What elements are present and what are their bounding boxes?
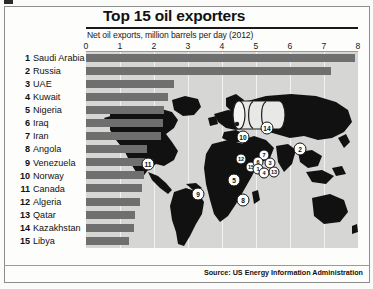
rank-number: 7 — [25, 131, 30, 141]
plot-area: 111021412157631413589 — [86, 52, 358, 248]
map-marker-canada[interactable]: 11 — [142, 158, 155, 171]
source-divider — [4, 265, 370, 266]
country-list: 1Saudi Arabia2Russia3UAE4Kuwait5Nigeria6… — [8, 52, 86, 248]
map-marker-nigeria[interactable]: 5 — [228, 174, 241, 187]
rank-number: 14 — [20, 223, 30, 233]
rank-number: 5 — [25, 105, 30, 115]
map-marker-russia[interactable]: 2 — [294, 143, 307, 156]
x-tick-label-4: 4 — [220, 41, 225, 51]
page-title: Top 15 oil exporters — [103, 7, 245, 25]
rank-number: 8 — [25, 144, 30, 154]
country-name: UAE — [33, 79, 52, 89]
list-item[interactable]: 10Norway — [8, 171, 86, 184]
bar-qatar — [86, 211, 135, 219]
x-tick-label-2: 2 — [152, 41, 157, 51]
rank-number: 10 — [20, 171, 30, 181]
list-item[interactable]: 5Nigeria — [8, 105, 86, 118]
source-credit: Source: US Energy Information Administra… — [204, 268, 363, 277]
country-name: Iran — [33, 131, 49, 141]
list-item[interactable]: 8Angola — [8, 144, 86, 157]
oil-barrel-icon — [229, 97, 287, 133]
list-item[interactable]: 6Iraq — [8, 118, 86, 131]
map-marker-kazakhstan[interactable]: 14 — [261, 122, 274, 135]
rank-number: 15 — [20, 236, 30, 246]
map-marker-algeria[interactable]: 12 — [236, 154, 247, 165]
country-name: Libya — [33, 236, 55, 246]
oil-exporters-infographic: Top 15 oil exporters Net oil exports, mi… — [0, 0, 373, 289]
map-marker-venezuela[interactable]: 9 — [192, 188, 205, 201]
list-item[interactable]: 1Saudi Arabia — [8, 53, 86, 66]
list-item[interactable]: 9Venezuela — [8, 158, 86, 171]
list-item[interactable]: 12Algeria — [8, 197, 86, 210]
country-name: Venezuela — [33, 158, 75, 168]
country-name: Saudi Arabia — [33, 53, 85, 63]
country-name: Angola — [33, 144, 61, 154]
bar-algeria — [86, 198, 140, 206]
x-tick-label-5: 5 — [254, 41, 259, 51]
country-name: Canada — [33, 184, 65, 194]
bar-canada — [86, 184, 142, 192]
list-item[interactable]: 7Iran — [8, 131, 86, 144]
country-name: Norway — [33, 171, 64, 181]
list-item[interactable]: 2Russia — [8, 66, 86, 79]
scan-artifact — [4, 0, 13, 4]
title-divider — [86, 27, 358, 29]
bar-angola — [86, 145, 147, 153]
list-item[interactable]: 14Kazakhstan — [8, 223, 86, 236]
rank-number: 1 — [25, 53, 30, 63]
bar-series — [86, 52, 358, 248]
list-item[interactable]: 4Kuwait — [8, 92, 86, 105]
rank-number: 4 — [25, 92, 30, 102]
map-marker-angola[interactable]: 8 — [237, 194, 250, 207]
x-tick-label-0: 0 — [84, 41, 89, 51]
x-tick-label-1: 1 — [118, 41, 123, 51]
country-name: Kazakhstan — [33, 223, 81, 233]
bar-libya — [86, 237, 129, 245]
x-tick-label-8: 8 — [356, 41, 361, 51]
bar-kuwait — [86, 93, 168, 101]
country-name: Iraq — [33, 118, 49, 128]
bar-venezuela — [86, 158, 146, 166]
rank-number: 2 — [25, 66, 30, 76]
rank-number: 13 — [20, 210, 30, 220]
bar-kazakhstan — [86, 224, 134, 232]
x-tick-label-6: 6 — [288, 41, 293, 51]
bar-uae — [86, 80, 174, 88]
list-item[interactable]: 3UAE — [8, 79, 86, 92]
bar-iran — [86, 132, 161, 140]
bar-saudi-arabia — [86, 54, 355, 62]
bar-iraq — [86, 119, 163, 127]
rank-number: 9 — [25, 158, 30, 168]
country-name: Kuwait — [33, 92, 60, 102]
rank-number: 12 — [20, 197, 30, 207]
country-name: Russia — [33, 66, 61, 76]
list-item[interactable]: 11Canada — [8, 184, 86, 197]
bar-norway — [86, 171, 144, 179]
chart-subtitle: Net oil exports, million barrels per day… — [87, 30, 253, 40]
map-marker-norway[interactable]: 10 — [237, 131, 250, 144]
map-marker-qatar[interactable]: 13 — [269, 167, 280, 178]
bar-nigeria — [86, 106, 164, 114]
rank-number: 6 — [25, 118, 30, 128]
x-tick-label-7: 7 — [322, 41, 327, 51]
bar-russia — [86, 67, 331, 75]
list-item[interactable]: 13Qatar — [8, 210, 86, 223]
rank-number: 3 — [25, 79, 30, 89]
list-item[interactable]: 15Libya — [8, 236, 86, 249]
x-tick-label-3: 3 — [186, 41, 191, 51]
rank-number: 11 — [20, 184, 30, 194]
country-name: Nigeria — [33, 105, 62, 115]
country-name: Algeria — [33, 197, 61, 207]
country-name: Qatar — [33, 210, 56, 220]
